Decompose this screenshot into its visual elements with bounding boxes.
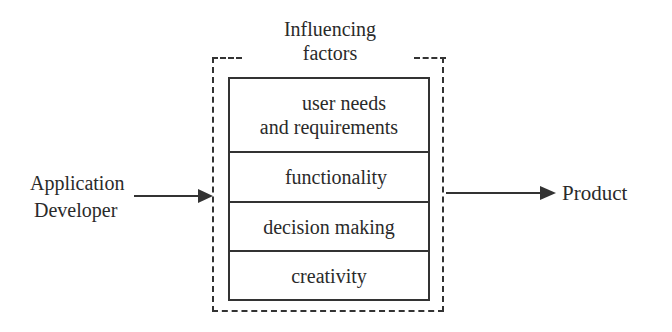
arrow-developer-to-factors bbox=[134, 189, 213, 203]
connector-arrows bbox=[0, 0, 672, 332]
arrow-factors-to-product bbox=[446, 186, 556, 200]
